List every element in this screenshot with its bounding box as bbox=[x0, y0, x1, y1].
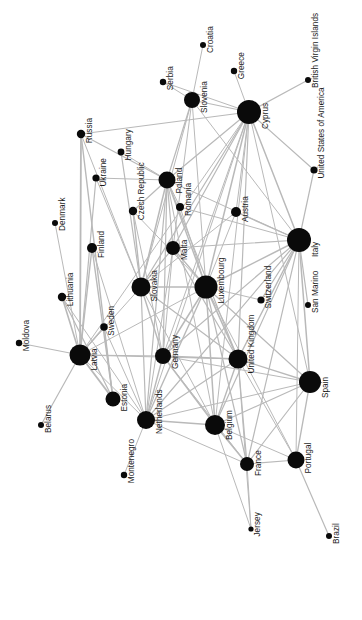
graph-edge bbox=[81, 112, 249, 134]
graph-node-label: Luxembourg bbox=[217, 257, 226, 303]
graph-node[interactable] bbox=[159, 172, 176, 189]
graph-node-label: Austria bbox=[241, 196, 250, 222]
graph-node[interactable] bbox=[231, 207, 241, 217]
graph-node-label: San Marino bbox=[311, 270, 320, 313]
graph-node-label: Moldova bbox=[22, 320, 31, 352]
graph-node-label: Belarus bbox=[44, 405, 53, 433]
graph-node[interactable] bbox=[137, 411, 155, 429]
graph-node-label: Croatia bbox=[206, 26, 215, 53]
graph-node-label: Brazil bbox=[332, 523, 341, 544]
graph-node-label: Ukraine bbox=[99, 158, 108, 187]
graph-node-label: Romania bbox=[184, 182, 193, 216]
graph-node-label: Estonia bbox=[120, 383, 129, 411]
graph-node-label: Cyprus bbox=[261, 103, 270, 129]
network-graph-svg: CroatiaGreeceBritish Virgin IslandsSerbi… bbox=[0, 0, 362, 620]
graph-node-label: Latvia bbox=[90, 348, 99, 371]
graph-node[interactable] bbox=[288, 452, 305, 469]
graph-node-label: Hungary bbox=[124, 128, 133, 160]
graph-edge bbox=[249, 112, 314, 170]
graph-node[interactable] bbox=[166, 241, 180, 255]
graph-node-label: Denmark bbox=[58, 197, 67, 231]
graph-node[interactable] bbox=[106, 392, 121, 407]
graph-edge bbox=[141, 287, 146, 420]
graph-node-label: Portugal bbox=[304, 442, 313, 473]
graph-node[interactable] bbox=[287, 228, 311, 252]
graph-node[interactable] bbox=[205, 415, 225, 435]
graph-node[interactable] bbox=[195, 276, 218, 299]
graph-node-label: Russia bbox=[85, 117, 94, 143]
graph-node-label: British Virgin Islands bbox=[311, 13, 320, 88]
graph-node[interactable] bbox=[70, 345, 91, 366]
graph-edge bbox=[299, 240, 310, 382]
graph-node-label: United States of America bbox=[317, 87, 326, 179]
graph-node-label: Serbia bbox=[166, 66, 175, 90]
graph-node[interactable] bbox=[132, 278, 151, 297]
graph-edge bbox=[80, 134, 81, 355]
graph-node-label: Italy bbox=[311, 241, 320, 257]
graph-node-label: France bbox=[254, 450, 263, 476]
graph-node-label: Czech Republic bbox=[137, 162, 146, 220]
graph-node-label: Belgium bbox=[225, 410, 234, 440]
nodes-layer bbox=[16, 42, 332, 539]
graph-node-label: Switzerland bbox=[264, 265, 273, 308]
graph-node-label: Greece bbox=[237, 52, 246, 80]
graph-node[interactable] bbox=[299, 371, 321, 393]
graph-node[interactable] bbox=[229, 350, 248, 369]
graph-node[interactable] bbox=[240, 457, 254, 471]
graph-node-label: Germany bbox=[171, 334, 180, 369]
graph-node-label: Finland bbox=[97, 230, 106, 258]
graph-node-label: Lithuania bbox=[66, 272, 75, 306]
graph-node-label: Slovakia bbox=[150, 270, 159, 302]
graph-node-label: Montenegro bbox=[127, 439, 136, 484]
graph-node-label: Netherlands bbox=[155, 389, 164, 434]
graph-node[interactable] bbox=[184, 92, 200, 108]
graph-node-label: Spain bbox=[321, 376, 330, 398]
graph-node[interactable] bbox=[237, 100, 261, 124]
graph-edge bbox=[296, 240, 299, 460]
graph-node-label: Sweden bbox=[107, 306, 116, 336]
graph-node-label: Slovenia bbox=[200, 81, 209, 113]
graph-node-label: Malta bbox=[180, 239, 189, 260]
graph-node-label: Jersey bbox=[253, 511, 262, 536]
graph-node[interactable] bbox=[87, 243, 97, 253]
graph-node-label: United Kingdom bbox=[247, 314, 256, 373]
network-graph-canvas: CroatiaGreeceBritish Virgin IslandsSerbi… bbox=[0, 0, 362, 620]
graph-node[interactable] bbox=[155, 348, 171, 364]
